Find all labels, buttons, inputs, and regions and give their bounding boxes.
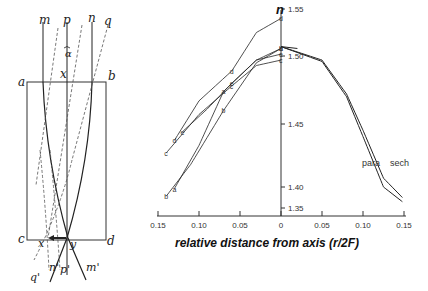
series-marker-c: c: [279, 57, 283, 64]
y-tick-label: 1.45: [288, 120, 304, 129]
label-x-bottom: x: [38, 237, 45, 250]
label-y: y: [69, 238, 77, 251]
x-tick-label: 0.15: [150, 221, 166, 230]
label-p-prime: p': [60, 263, 70, 276]
refractive-index-chart: 0.150.100.0500.050.100.15 1.551.501.451.…: [150, 2, 412, 250]
series-marker-c: c: [164, 150, 168, 157]
label-b: b: [108, 69, 116, 83]
series-line-d: [174, 18, 281, 140]
series-marker-d: d: [230, 68, 234, 75]
series-line-b: [166, 48, 281, 196]
series-marker-a: a: [172, 186, 176, 193]
label-p: p: [63, 13, 71, 27]
x-axis-title: relative distance from axis (r/2F): [175, 236, 359, 250]
annotation-para: para: [362, 158, 380, 168]
label-n-prime: n': [49, 261, 59, 274]
dashed-ray-n-prime: [40, 150, 49, 270]
label-m: m: [39, 13, 50, 27]
label-q: q: [104, 14, 112, 28]
label-d: d: [107, 234, 115, 248]
label-alpha: α: [65, 48, 72, 59]
x-tick-label: 0.05: [314, 221, 330, 230]
lens-ray-diagram: m p n q α x a b c d x y q' n' p' m': [18, 11, 116, 284]
label-m-prime: m': [86, 261, 99, 274]
label-q-prime: q': [30, 271, 40, 284]
y-axis-title: n: [276, 2, 284, 17]
x-tick-label: 0: [279, 221, 284, 230]
label-a: a: [18, 75, 25, 89]
y-tick-label: 1.35: [288, 204, 304, 213]
series-line-a: [174, 48, 281, 188]
ray-n: [50, 82, 92, 282]
label-c: c: [18, 232, 25, 246]
series-marker-a: a: [222, 88, 226, 95]
label-n: n: [88, 11, 96, 25]
label-x-top: x: [60, 67, 67, 81]
dashed-ray-q: [72, 25, 108, 160]
y-tick-label: 1.40: [288, 183, 304, 192]
dashed-ray-1: [36, 28, 58, 185]
ray-m: [43, 82, 86, 280]
y-tick-label: 1.55: [288, 5, 304, 14]
series-line-e: [183, 54, 281, 131]
x-tick-label: 0.15: [396, 221, 412, 230]
figure: m p n q α x a b c d x y q' n' p' m' 0.15…: [0, 0, 428, 291]
series-marker-b: b: [222, 107, 226, 114]
x-tick-label: 0.10: [355, 221, 371, 230]
x-tick-label: 0.10: [191, 221, 207, 230]
series-marker-e: e: [181, 129, 185, 136]
x-tick-label: 0.05: [232, 221, 248, 230]
series-marker-b: b: [164, 193, 168, 200]
annotation-sech: sech: [390, 158, 409, 168]
